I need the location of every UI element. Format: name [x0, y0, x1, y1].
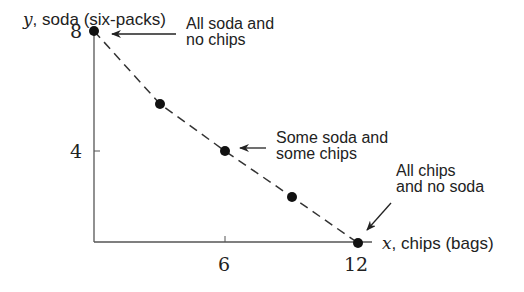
y-axis-var: y	[22, 9, 33, 29]
annotation-all-chips: All chips and no soda	[396, 162, 484, 195]
x-tick-label-6: 6	[218, 253, 230, 275]
data-point-6-4	[220, 146, 230, 156]
data-point-9-2	[287, 192, 297, 202]
annotation-some-soda: Some soda and some chips	[276, 129, 393, 162]
data-point-3-6	[155, 99, 165, 109]
annotation-some-soda-line-1: Some soda and	[276, 129, 388, 146]
x-axis-text: , chips (bags)	[392, 234, 494, 253]
annotation-all-chips-line-1: All chips	[396, 162, 456, 179]
data-point-0-8	[89, 26, 99, 36]
y-axis-label: y, soda (six-packs)	[22, 9, 166, 29]
annotation-all-soda-line-1: All soda and	[186, 15, 274, 32]
x-axis-var: x	[382, 233, 392, 253]
annotation-all-soda: All soda and no chips	[186, 15, 279, 48]
annotation-arrow-all-chips	[367, 203, 391, 230]
y-tick-label-4: 4	[70, 140, 82, 162]
annotation-all-soda-line-2: no chips	[186, 31, 246, 48]
y-axis-text: , soda (six-packs)	[33, 10, 166, 29]
annotation-some-soda-line-2: some chips	[276, 145, 357, 162]
x-axis-label: x, chips (bags)	[382, 233, 494, 253]
budget-line-chart: 8 4 6 12 y, soda (six-packs) x, chips (b…	[0, 0, 524, 292]
annotation-all-chips-line-2: and no soda	[396, 178, 484, 195]
data-point-12-0	[353, 238, 363, 248]
x-tick-label-12: 12	[344, 253, 368, 275]
